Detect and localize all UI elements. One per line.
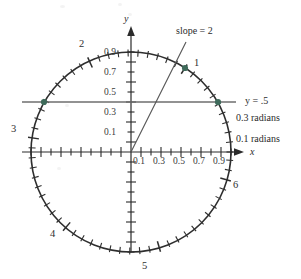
scan-artifact <box>128 13 132 16</box>
radian-label-3: 3 <box>11 124 16 135</box>
x-tick-label-0-5: 0.5 <box>173 157 185 167</box>
zero-point-three-radians-annotation: 0.3 radians <box>236 113 280 123</box>
y-tick-label-0-5: 0.5 <box>104 88 116 98</box>
point-one-radian <box>182 65 188 71</box>
scan-artifact <box>65 104 69 107</box>
y-tick-label-0-1: 0.1 <box>104 128 116 138</box>
scan-artifact <box>118 3 122 6</box>
x-tick-label-0-1: 0.1 <box>133 157 145 167</box>
x-axis-label: x <box>250 147 254 157</box>
y-axis <box>127 26 135 252</box>
slope-annotation: slope = 2 <box>176 26 213 36</box>
radian-label-5: 5 <box>142 261 147 272</box>
x-tick-label-0-9: 0.9 <box>213 157 225 167</box>
y-tick-label-0-7: 0.7 <box>104 68 116 78</box>
scan-artifact <box>60 5 65 8</box>
radian-label-6: 6 <box>233 180 238 191</box>
point-right-intersection <box>215 99 221 105</box>
x-tick-label-0-7: 0.7 <box>193 157 205 167</box>
radian-label-4: 4 <box>50 229 55 240</box>
y-equals-point-five-annotation: y = .5 <box>245 96 268 106</box>
x-tick-label-0-3: 0.3 <box>153 157 165 167</box>
zero-point-one-radians-annotation: 0.1 radians <box>236 134 280 144</box>
radian-label-1: 1 <box>194 58 199 69</box>
y-tick-label-0-9: 0.9 <box>104 48 116 58</box>
scan-artifact <box>57 167 61 170</box>
y-tick-label-0-3: 0.3 <box>104 108 116 118</box>
slope-two-line <box>131 42 186 152</box>
point-left-intersection <box>41 99 47 105</box>
radian-label-2: 2 <box>79 39 84 50</box>
